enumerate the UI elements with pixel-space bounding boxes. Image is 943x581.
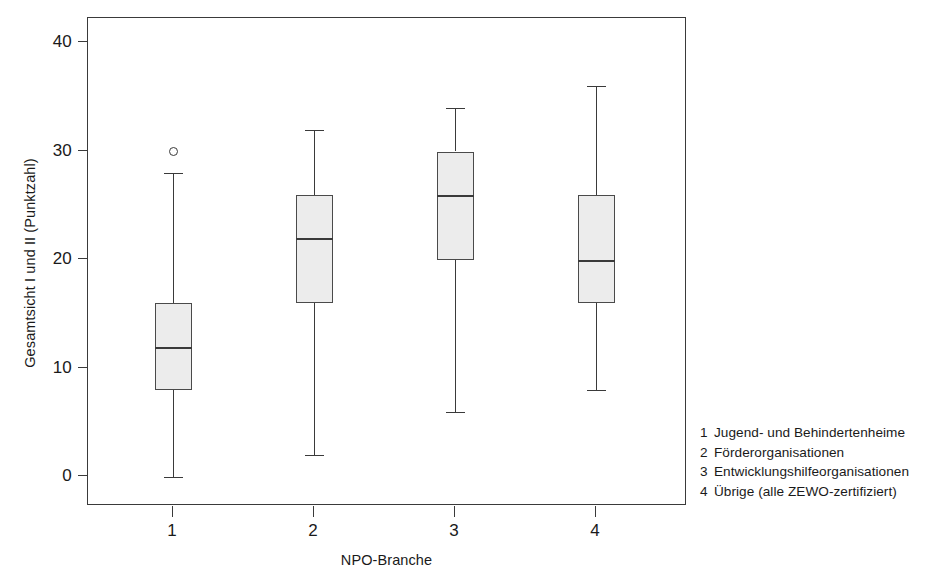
- y-axis-tick-label: 0: [26, 467, 72, 484]
- whisker-lower: [455, 260, 456, 412]
- x-axis-title: NPO-Branche: [87, 552, 686, 568]
- whisker-upper: [455, 108, 456, 151]
- y-axis-tick-label: 20: [26, 250, 72, 267]
- legend-item: 1Jugend- und Behindertenheime: [700, 423, 940, 443]
- median-line: [296, 238, 333, 240]
- whisker-cap-upper: [587, 86, 606, 87]
- y-axis-tick-label: 30: [26, 142, 72, 159]
- box-iqr: [437, 152, 474, 261]
- legend-item-key: 2: [700, 443, 714, 463]
- box-iqr: [578, 195, 615, 304]
- box-iqr: [296, 195, 333, 304]
- whisker-lower: [314, 303, 315, 455]
- median-line: [578, 260, 615, 262]
- median-line: [155, 347, 192, 349]
- x-axis-tick-label: 2: [293, 522, 333, 540]
- legend-item-label: Förderorganisationen: [714, 443, 940, 463]
- whisker-upper: [173, 173, 174, 303]
- x-axis-tick: [454, 506, 455, 517]
- whisker-upper: [314, 130, 315, 195]
- y-axis-tick-label: 40: [26, 33, 72, 50]
- legend-item: 4Übrige (alle ZEWO-zertifiziert): [700, 482, 940, 502]
- x-axis-tick-label: 4: [575, 522, 615, 540]
- whisker-lower: [173, 390, 174, 477]
- x-axis-tick: [595, 506, 596, 517]
- x-axis-tick: [313, 506, 314, 517]
- legend-item-key: 3: [700, 462, 714, 482]
- outlier-point: [169, 147, 178, 156]
- y-axis-tick-label: 10: [26, 359, 72, 376]
- legend-item-label: Übrige (alle ZEWO-zertifiziert): [714, 482, 940, 502]
- whisker-cap-upper: [164, 173, 183, 174]
- whisker-upper: [596, 86, 597, 195]
- legend-item-key: 1: [700, 423, 714, 443]
- boxplot-figure: Gesamtsicht I und II (Punktzahl) 0102030…: [0, 0, 943, 581]
- legend-item: 3Entwicklungshilfeorganisationen: [700, 462, 940, 482]
- x-axis-tick-label: 1: [152, 522, 192, 540]
- legend-item-label: Jugend- und Behindertenheime: [714, 423, 940, 443]
- plot-area: [87, 17, 686, 505]
- median-line: [437, 195, 474, 197]
- whisker-cap-lower: [305, 455, 324, 456]
- whisker-lower: [596, 303, 597, 390]
- whisker-cap-lower: [164, 477, 183, 478]
- legend: 1Jugend- und Behindertenheime2Förderorga…: [700, 423, 940, 501]
- legend-item: 2Förderorganisationen: [700, 443, 940, 463]
- whisker-cap-lower: [446, 412, 465, 413]
- whisker-cap-upper: [305, 130, 324, 131]
- whisker-cap-upper: [446, 108, 465, 109]
- whisker-cap-lower: [587, 390, 606, 391]
- x-axis-tick-label: 3: [434, 522, 474, 540]
- x-axis-tick: [172, 506, 173, 517]
- legend-item-key: 4: [700, 482, 714, 502]
- legend-item-label: Entwicklungshilfeorganisationen: [714, 462, 940, 482]
